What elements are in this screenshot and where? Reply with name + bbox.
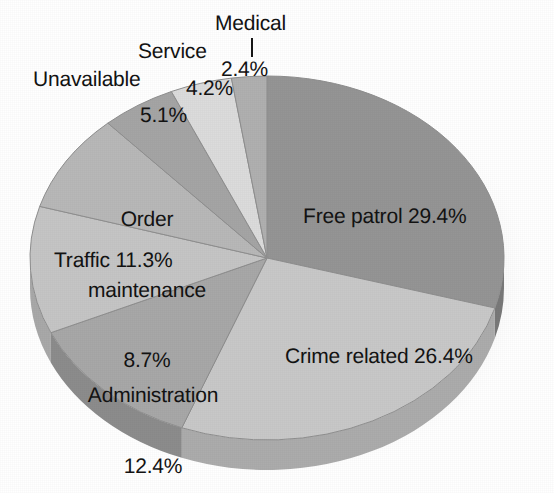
slice-label-administration-pct: 12.4% — [63, 455, 243, 479]
slice-label-order-line2: maintenance — [72, 279, 222, 303]
slice-label-medical-name: Medical — [215, 12, 286, 36]
medical-leader-line — [251, 38, 253, 57]
slice-label-order-pct: 8.7% — [72, 349, 222, 373]
slice-label-medical-pct: 2.4% — [221, 58, 268, 82]
slice-label-crime-related: Crime related 26.4% — [285, 345, 473, 369]
slice-label-service-name: Service — [138, 40, 207, 64]
slice-label-order-line1: Order — [72, 208, 222, 232]
slice-label-unavailable-pct: 5.1% — [140, 104, 187, 128]
pie-chart-figure: Free patrol 29.4% Crime related 26.4% Ad… — [0, 0, 554, 493]
slice-label-order-maintenance: Order maintenance 8.7% — [72, 161, 222, 420]
slice-label-unavailable-name: Unavailable — [33, 68, 141, 92]
slice-label-free-patrol: Free patrol 29.4% — [303, 205, 467, 229]
